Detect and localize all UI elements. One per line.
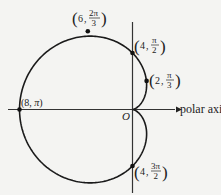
svg-text:6: 6 (78, 13, 83, 24)
svg-text:π: π (167, 70, 172, 80)
svg-text:): ) (175, 71, 181, 90)
diagram-canvas: polar axis O (8, π) ( 6 , 2π 3 ) ( 4 , π… (0, 0, 221, 195)
origin-label: O (122, 110, 130, 122)
svg-text:): ) (160, 37, 166, 56)
svg-text:3: 3 (167, 80, 172, 90)
point-6-2pi3-dot (86, 29, 91, 34)
point-4-pi2-label: ( 4 , π 2 ) (134, 35, 166, 56)
svg-text:2: 2 (152, 45, 157, 55)
point-2-pi3-label: ( 2 , π 3 ) (149, 70, 181, 90)
svg-text:2: 2 (155, 75, 160, 86)
svg-text:3: 3 (92, 18, 97, 28)
polar-axis-label: polar axis (180, 102, 221, 116)
svg-text:π: π (152, 35, 157, 45)
point-4-3pi2-label: ( 4 , 3π 2 ) (134, 161, 168, 182)
svg-text:,: , (161, 75, 164, 86)
svg-text:4: 4 (140, 40, 145, 51)
svg-text:4: 4 (140, 166, 145, 177)
point-6-2pi3-label: ( 6 , 2π 3 ) (72, 8, 107, 28)
svg-text:): ) (162, 163, 168, 182)
svg-text:,: , (146, 40, 149, 51)
svg-text:,: , (84, 13, 87, 24)
svg-text:3π: 3π (151, 161, 161, 171)
svg-text:2π: 2π (89, 8, 99, 18)
polar-cardioid-diagram: polar axis O (8, π) ( 6 , 2π 3 ) ( 4 , π… (0, 0, 221, 195)
point-8-pi-label: (8, π) (21, 97, 43, 109)
svg-text:): ) (101, 9, 107, 28)
svg-text:,: , (146, 166, 149, 177)
svg-text:2: 2 (154, 171, 159, 181)
